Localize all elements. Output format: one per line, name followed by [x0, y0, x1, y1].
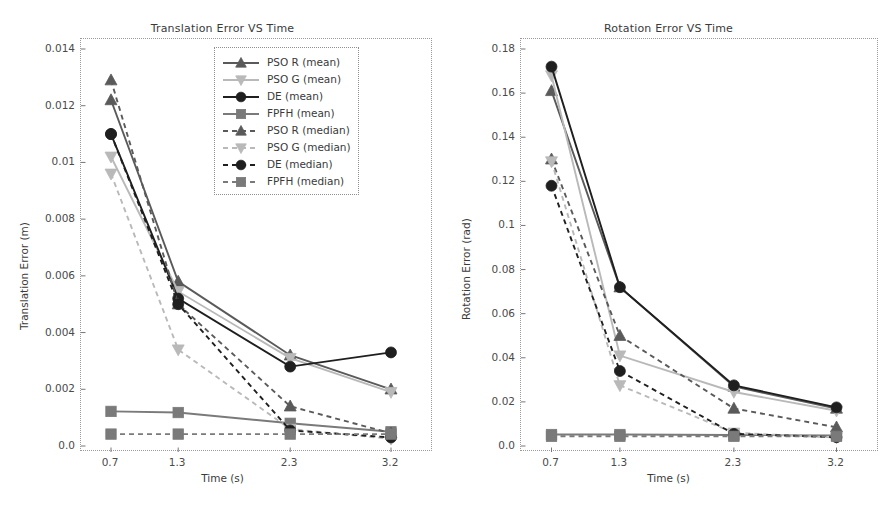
legend-marker-triangle-down-icon — [221, 72, 261, 86]
legend-item: PSO R (median) — [221, 121, 351, 138]
legend-item-label: DE (mean) — [267, 90, 323, 102]
plot-area-rotation — [520, 38, 878, 451]
data-point-marker — [386, 429, 396, 439]
data-point-marker — [614, 366, 625, 377]
data-point-marker — [728, 380, 739, 391]
legend-item: FPFH (mean) — [221, 104, 351, 121]
legend-marker-triangle-up-icon — [221, 123, 261, 137]
legend-item: DE (mean) — [221, 87, 351, 104]
y-tick-label: 0.01 — [32, 155, 75, 167]
y-tick-label: 0.08 — [472, 263, 515, 275]
legend-item: PSO G (mean) — [221, 70, 351, 87]
legend-marker-square-icon — [221, 106, 261, 120]
x-tick-label: 0.7 — [542, 456, 559, 468]
plot-svg-rotation — [521, 39, 879, 452]
legend-item: PSO R (mean) — [221, 53, 351, 70]
data-point-marker — [831, 431, 841, 441]
legend-marker-triangle-up-icon — [221, 55, 261, 69]
legend-item-label: PSO G (mean) — [267, 73, 341, 85]
legend-item: PSO G (median) — [221, 138, 351, 155]
chart-title-rotation: Rotation Error VS Time — [446, 22, 891, 35]
y-tick-label: 0.002 — [32, 382, 75, 394]
data-point-marker — [728, 402, 740, 413]
chart-title-translation: Translation Error VS Time — [0, 22, 445, 35]
data-point-marker — [106, 129, 117, 140]
x-tick-label: 2.3 — [725, 456, 742, 468]
y-tick-label: 0.008 — [32, 212, 75, 224]
data-point-marker — [386, 347, 397, 358]
legend-item-label: FPFH (mean) — [267, 107, 335, 119]
legend-marker-circle-icon — [221, 89, 261, 103]
data-point-marker — [105, 74, 117, 85]
y-tick-label: 0.1 — [472, 218, 515, 230]
legend-item: DE (median) — [221, 155, 351, 172]
y-tick-label: 0.18 — [472, 42, 515, 54]
y-tick-label: 0.12 — [472, 174, 515, 186]
data-point-marker — [831, 402, 842, 413]
x-tick-label: 0.7 — [102, 456, 119, 468]
legend-item-label: PSO R (mean) — [267, 56, 340, 68]
panel-translation: Translation Error VS Time Translation Er… — [0, 0, 445, 506]
series-line — [552, 75, 837, 410]
data-point-marker — [546, 61, 557, 72]
panel-rotation: Rotation Error VS Time Rotation Error (r… — [446, 0, 891, 506]
y-tick-label: 0.04 — [472, 351, 515, 363]
x-tick-label: 1.3 — [169, 456, 186, 468]
data-point-marker — [729, 431, 739, 441]
x-axis-label-rotation: Time (s) — [446, 472, 891, 484]
series-line — [111, 411, 391, 431]
legend-marker-circle-icon — [221, 157, 261, 171]
series-line — [552, 67, 837, 408]
legend-item: FPFH (median) — [221, 172, 351, 189]
legend-item-label: PSO G (median) — [267, 141, 351, 153]
y-tick-label: 0.014 — [32, 42, 75, 54]
y-tick-label: 0.0 — [472, 439, 515, 451]
x-tick-label: 1.3 — [611, 456, 628, 468]
y-tick-label: 0.004 — [32, 326, 75, 338]
y-tick-label: 0.02 — [472, 395, 515, 407]
y-tick-label: 0.16 — [472, 86, 515, 98]
data-point-marker — [285, 361, 296, 372]
data-point-marker — [106, 406, 116, 416]
legend: PSO R (mean)PSO G (mean)DE (mean)FPFH (m… — [214, 47, 359, 195]
y-tick-label: 0.006 — [32, 269, 75, 281]
legend-marker-square-icon — [221, 174, 261, 188]
y-tick-label: 0.14 — [472, 130, 515, 142]
data-point-marker — [615, 431, 625, 441]
x-tick-label: 2.3 — [281, 456, 298, 468]
data-point-marker — [546, 431, 556, 441]
x-tick-label: 3.2 — [827, 456, 844, 468]
data-point-marker — [105, 152, 117, 163]
x-axis-label-translation: Time (s) — [0, 472, 445, 484]
data-point-marker — [614, 282, 625, 293]
y-tick-label: 0.012 — [32, 99, 75, 111]
legend-marker-triangle-down-icon — [221, 140, 261, 154]
data-point-marker — [106, 429, 116, 439]
y-tick-label: 0.0 — [32, 439, 75, 451]
data-point-marker — [285, 429, 295, 439]
data-point-marker — [105, 169, 117, 180]
data-point-marker — [173, 299, 184, 310]
series-line — [552, 159, 837, 427]
y-axis-label-rotation: Rotation Error (rad) — [460, 218, 472, 320]
data-point-marker — [546, 180, 557, 191]
legend-item-label: FPFH (median) — [267, 175, 344, 187]
y-axis-label-translation: Translation Error (m) — [18, 222, 30, 330]
data-point-marker — [172, 345, 184, 356]
legend-item-label: DE (median) — [267, 158, 333, 170]
data-point-marker — [173, 407, 183, 417]
y-tick-label: 0.06 — [472, 307, 515, 319]
x-tick-label: 3.2 — [382, 456, 399, 468]
data-point-marker — [105, 94, 117, 105]
data-point-marker — [173, 429, 183, 439]
figure-canvas: Translation Error VS Time Translation Er… — [0, 0, 891, 506]
legend-item-label: PSO R (median) — [267, 124, 350, 136]
